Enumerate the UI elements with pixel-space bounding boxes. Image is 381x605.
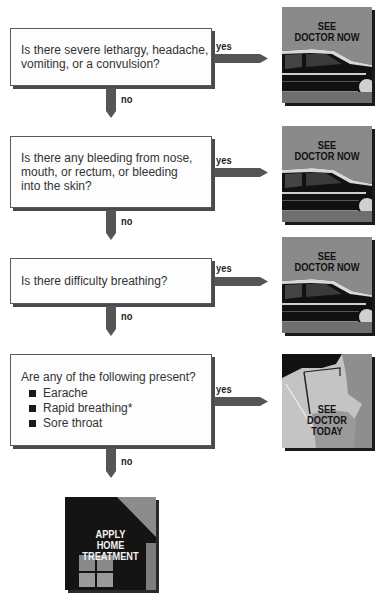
symptom-list: Earache Rapid breathing* Sore throat — [21, 386, 211, 431]
question-text: mouth, or rectum, or bleeding — [21, 165, 211, 179]
bullet-square-icon — [29, 390, 36, 397]
outcome-see-doctor-now: SEE DOCTOR NOW — [282, 237, 372, 333]
question-text: Is there severe lethargy, headache, — [21, 43, 211, 57]
outcome-see-doctor-now: SEE DOCTOR NOW — [282, 7, 372, 103]
outcome-caption: SEE DOCTOR TODAY — [287, 404, 366, 437]
outcome-apply-home-treatment: APPLY HOME TREATMENT — [65, 497, 156, 590]
yes-label: yes — [216, 383, 232, 395]
question-box-symptoms: Are any of the following present? Earach… — [10, 354, 212, 446]
no-arrow-icon — [106, 448, 116, 478]
yes-arrow-icon — [214, 397, 268, 406]
question-box-bleeding: Is there any bleeding from nose, mouth, … — [10, 136, 212, 208]
bullet-square-icon — [29, 405, 36, 412]
question-text: vomiting, or a convulsion? — [21, 57, 211, 71]
symptom-item: Earache — [29, 386, 211, 401]
outcome-caption: APPLY HOME TREATMENT — [70, 529, 150, 562]
outcome-see-doctor-now: SEE DOCTOR NOW — [282, 126, 372, 222]
no-label: no — [121, 310, 132, 322]
yes-label: yes — [216, 40, 232, 52]
yes-arrow-icon — [214, 54, 268, 63]
symptom-item: Sore throat — [29, 416, 211, 431]
no-label: no — [121, 215, 132, 227]
no-arrow-icon — [106, 88, 116, 118]
question-box-breathing: Is there difficulty breathing? — [10, 258, 212, 304]
bullet-square-icon — [29, 420, 36, 427]
yes-arrow-icon — [214, 277, 268, 286]
question-text: into the skin? — [21, 179, 211, 193]
question-text: Are any of the following present? — [21, 370, 211, 384]
no-arrow-icon — [106, 210, 116, 240]
question-box-lethargy: Is there severe lethargy, headache, vomi… — [10, 28, 212, 86]
yes-label: yes — [216, 262, 232, 274]
no-label: no — [121, 455, 132, 467]
outcome-caption: SEE DOCTOR NOW — [287, 140, 366, 162]
symptom-item: Rapid breathing* — [29, 401, 211, 416]
yes-label: yes — [216, 154, 232, 166]
question-text: Is there any bleeding from nose, — [21, 151, 211, 165]
outcome-caption: SEE DOCTOR NOW — [287, 21, 366, 43]
no-arrow-icon — [106, 306, 116, 336]
outcome-see-doctor-today: SEE DOCTOR TODAY — [282, 354, 372, 448]
outcome-caption: SEE DOCTOR NOW — [287, 251, 366, 273]
no-label: no — [121, 93, 132, 105]
question-text: Is there difficulty breathing? — [21, 274, 211, 288]
yes-arrow-icon — [214, 168, 268, 177]
